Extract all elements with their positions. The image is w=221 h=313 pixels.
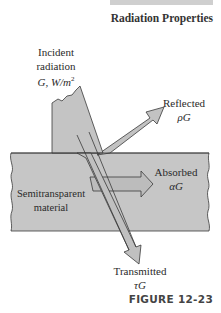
reflected-arrow	[97, 107, 164, 155]
absorbed-label: Absorbed αG	[150, 166, 202, 193]
transmitted-label: Transmitted τG	[110, 265, 170, 292]
incident-superscript: 2	[71, 75, 75, 83]
material-label-line2: material	[13, 201, 89, 215]
absorbed-symbol: αG	[150, 180, 202, 194]
reflected-symbol: ρG	[158, 111, 210, 125]
incident-label-line2: radiation	[31, 60, 81, 74]
figure-label: FIGURE 12-23	[129, 293, 213, 305]
incident-symbol-text: G, W/m	[37, 76, 71, 88]
incident-label-line1: Incident	[31, 46, 81, 60]
incident-label: Incident radiation G, W/m2	[31, 46, 81, 89]
absorbed-label-text: Absorbed	[150, 166, 202, 180]
reflected-label: Reflected ρG	[158, 97, 210, 124]
material-label: Semitransparent material	[13, 187, 89, 214]
reflected-label-text: Reflected	[158, 97, 210, 111]
material-label-line1: Semitransparent	[13, 187, 89, 201]
transmitted-label-text: Transmitted	[110, 265, 170, 279]
transmitted-symbol: τG	[110, 279, 170, 293]
incident-symbol: G, W/m2	[31, 73, 81, 89]
incident-beam	[52, 86, 103, 153]
